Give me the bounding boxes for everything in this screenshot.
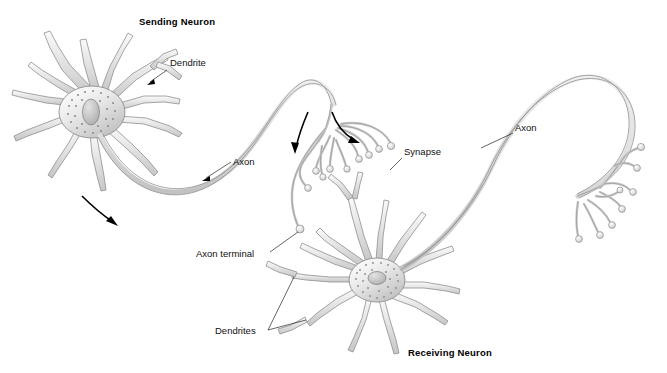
diagram-canvas: Sending Neuron Dendrite Axon Synapse Axo…: [0, 0, 667, 373]
receiving-neuron-nucleus: [368, 272, 386, 285]
leader-dendrites-b: [268, 277, 294, 330]
right-axon-terminal-arbor: [576, 143, 645, 242]
axon-terminal-arbor: [291, 104, 395, 233]
leader-axon-left-arrowhead: [202, 176, 210, 181]
leader-dendrite: [150, 70, 167, 82]
label-dendrites: Dendrites: [215, 325, 256, 336]
leader-axon-terminal: [270, 232, 298, 252]
label-axon-left: Axon: [233, 156, 255, 167]
signal-arrow-terminal-left: [291, 112, 308, 154]
leader-synapse: [390, 158, 402, 170]
label-axon-terminal: Axon terminal: [196, 248, 254, 259]
receiving-neuron-title: Receiving Neuron: [408, 347, 492, 358]
sending-neuron-title: Sending Neuron: [139, 16, 215, 27]
leader-dendrite-arrowhead: [147, 79, 155, 85]
label-dendrite: Dendrite: [170, 57, 206, 68]
signal-arrow-axon: [82, 196, 118, 226]
receiving-neuron: [266, 75, 635, 354]
label-synapse: Synapse: [404, 146, 441, 157]
label-axon-right: Axon: [515, 122, 537, 133]
sending-neuron-nucleus: [83, 99, 100, 125]
receiving-neuron-axon: [400, 75, 635, 270]
neuron-synapse-diagram: Sending Neuron Dendrite Axon Synapse Axo…: [0, 0, 667, 373]
